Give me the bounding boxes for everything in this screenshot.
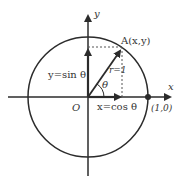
- origin-label: O: [72, 102, 80, 113]
- unit-point-label: (1,0): [151, 103, 173, 113]
- y-axis-label: y: [93, 8, 100, 19]
- radius-label: r=1: [109, 65, 127, 75]
- sin-label: y=sin θ: [47, 69, 86, 80]
- unit-point-dot: [145, 94, 151, 100]
- point-a-label: A(x,y): [120, 35, 151, 46]
- unit-circle-diagram: y x A(x,y) r=1 θ y=sin θ x=cos θ O (1,0): [0, 0, 184, 182]
- cos-label: x=cos θ: [97, 101, 137, 112]
- x-axis-label: x: [168, 81, 174, 92]
- theta-label: θ: [102, 79, 108, 90]
